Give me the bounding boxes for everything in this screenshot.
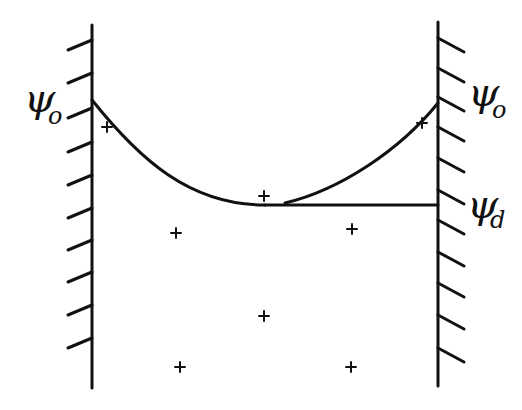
wall-hatch: [438, 38, 464, 52]
wall-hatch: [68, 305, 92, 315]
wall-hatch: [68, 142, 92, 152]
wall-hatch: [438, 158, 464, 172]
ion-markers: [102, 118, 427, 372]
cross-marker: [175, 362, 185, 372]
electrode-potential-diagram: ψ o ψ o ψ d: [0, 0, 522, 410]
wall-hatch: [438, 252, 464, 266]
psi-subscript: o: [492, 96, 506, 124]
curve-right-branch: [285, 103, 438, 203]
label-right-psi0: ψ o: [468, 69, 506, 124]
wall-hatch: [68, 108, 92, 118]
label-right-psid: ψ d: [467, 181, 505, 234]
wall-hatch: [438, 97, 464, 111]
wall-hatch: [68, 208, 92, 218]
cross-marker: [347, 224, 357, 234]
cross-marker: [346, 362, 356, 372]
wall-hatch: [438, 283, 464, 297]
right-wall: [438, 22, 464, 386]
wall-hatch: [68, 272, 92, 282]
wall-hatch: [438, 220, 464, 234]
label-left-psi0: ψ o: [24, 75, 62, 130]
wall-hatch: [438, 68, 464, 82]
wall-hatch: [68, 40, 92, 50]
psi-subscript: d: [490, 206, 505, 234]
wall-hatch: [438, 127, 464, 141]
wall-hatch: [438, 190, 464, 204]
psi-subscript: o: [48, 102, 62, 130]
potential-curve: [92, 100, 438, 205]
wall-hatch: [68, 175, 92, 185]
cross-marker: [259, 311, 269, 321]
wall-hatch: [438, 315, 464, 329]
curve-left-branch: [92, 100, 265, 205]
cross-marker: [259, 191, 269, 201]
cross-marker: [171, 228, 181, 238]
wall-hatch: [438, 348, 464, 362]
left-wall: [68, 25, 92, 388]
wall-hatch: [68, 240, 92, 250]
wall-hatch: [68, 73, 92, 83]
wall-hatch: [68, 338, 92, 348]
